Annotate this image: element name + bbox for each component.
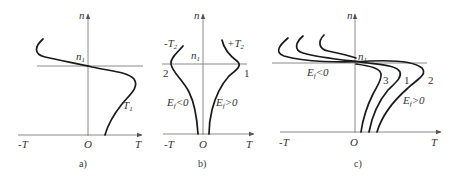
caption-b: b) [198,158,206,170]
n1-label: n1 [191,49,200,63]
curve-number-2: 2 [163,67,169,79]
curve-number-3: 3 [383,74,389,86]
curve-label-neg-T2: -T2 [164,37,178,51]
curve-label-T1: T1 [123,99,133,113]
curve-number-2: 2 [428,74,434,86]
condition-neg: Ef<0 [166,96,189,110]
x-axis-neg-label: -T [164,138,175,150]
x-axis-pos-label: T [246,138,253,150]
caption-c: c) [354,158,362,170]
curve-label-pos-T2: +T2 [227,37,245,51]
condition-pos: Ef>0 [215,96,238,110]
curve-T1 [37,39,136,135]
condition-neg: Ef<0 [306,66,329,80]
curve-pos-T2 [209,40,239,134]
condition-pos: Ef>0 [402,94,425,108]
x-axis-neg-label: -T [18,138,29,150]
x-axis-neg-label: -T [279,136,290,148]
origin-label: O [350,136,358,148]
origin-label: O [199,138,207,150]
figure-canvas: n n1 T1 -T O T a) n n1 -T2 +T2 2 1 Ef<0 … [0,0,458,180]
x-axis-pos-label: T [431,136,438,148]
y-axis-label: n [347,9,353,21]
origin-label: O [84,138,92,150]
curve-number-1: 1 [404,74,410,86]
x-axis-pos-label: T [135,138,142,150]
panel-b: n n1 -T2 +T2 2 1 Ef<0 Ef>0 -T O T b) [162,9,254,170]
panel-c: n n1 3 1 2 Ef<0 Ef>0 -T O T c) [272,9,441,170]
y-axis-label: n [79,9,85,21]
y-axis-label: n [194,9,200,21]
panel-a: n n1 T1 -T O T a) [18,9,143,170]
n1-label: n1 [358,50,367,64]
n1-label: n1 [76,50,85,64]
curve-number-1: 1 [244,67,250,79]
caption-a: a) [79,158,87,170]
